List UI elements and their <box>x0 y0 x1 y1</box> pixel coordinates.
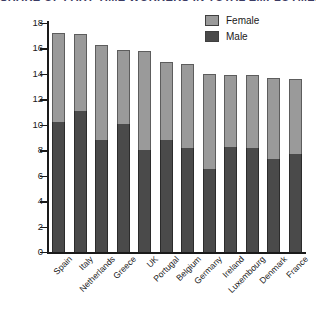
bar-chart: SHARE OF PART-TIME WORKERS IN TOTAL EMPL… <box>0 0 316 316</box>
bar-series-container <box>47 23 305 252</box>
legend-item-female[interactable]: Female <box>205 15 259 26</box>
bar-segment-male <box>95 140 108 252</box>
bar-segment-male <box>74 111 87 252</box>
bar-ireland[interactable] <box>224 75 237 252</box>
bar-spain[interactable] <box>52 33 65 252</box>
bar-segment-female <box>267 78 280 159</box>
bar-segment-female <box>95 45 108 140</box>
y-tick-label: 10 <box>32 120 43 130</box>
x-axis-labels: SpainItalyNetherlandsGreeceUKPortugalBel… <box>47 254 309 316</box>
bar-belgium[interactable] <box>181 64 194 252</box>
bar-segment-male <box>246 148 259 252</box>
bar-segment-male <box>289 154 302 252</box>
bar-segment-male <box>117 124 130 252</box>
legend-swatch-female <box>205 15 219 26</box>
bar-segment-female <box>224 75 237 147</box>
bar-segment-female <box>74 34 87 110</box>
bar-luxembourg[interactable] <box>246 75 259 252</box>
y-tick-label: 12 <box>32 95 43 105</box>
bar-germany[interactable] <box>203 74 216 252</box>
bar-segment-female <box>52 33 65 122</box>
bar-segment-female <box>203 74 216 169</box>
x-label-spain: Spain <box>51 254 74 277</box>
bar-uk[interactable] <box>138 51 151 252</box>
bar-segment-male <box>181 148 194 252</box>
legend-swatch-male <box>205 31 219 42</box>
plot-area: % of total employment 1994 0246810121416… <box>47 23 305 252</box>
bar-segment-female <box>138 51 151 150</box>
x-label-france: France <box>284 254 310 280</box>
bar-segment-female <box>117 50 130 124</box>
bar-netherlands[interactable] <box>95 45 108 252</box>
bar-denmark[interactable] <box>267 78 280 252</box>
bar-segment-male <box>52 122 65 252</box>
bar-segment-female <box>289 79 302 154</box>
y-tick-label: 16 <box>32 44 43 54</box>
bar-segment-female <box>181 64 194 148</box>
bar-portugal[interactable] <box>160 62 173 252</box>
bar-segment-female <box>246 75 259 148</box>
bar-france[interactable] <box>289 79 302 252</box>
bar-segment-male <box>267 159 280 252</box>
y-tick-label: 0 <box>38 247 43 257</box>
bar-italy[interactable] <box>74 34 87 252</box>
chart-legend: Female Male <box>205 15 259 42</box>
y-tick-label: 8 <box>38 145 43 155</box>
y-tick-label: 14 <box>32 69 43 79</box>
bar-segment-male <box>160 140 173 252</box>
y-tick-label: 18 <box>32 18 43 28</box>
bar-segment-female <box>160 62 173 140</box>
legend-item-male[interactable]: Male <box>205 31 259 42</box>
legend-label-female: Female <box>226 16 259 26</box>
x-label-greece: Greece <box>111 254 138 281</box>
bar-segment-male <box>138 150 151 252</box>
y-tick-label: 4 <box>38 196 43 206</box>
x-label-uk: UK <box>144 254 160 270</box>
y-tick-label: 2 <box>38 222 43 232</box>
bar-segment-male <box>224 147 237 252</box>
bar-greece[interactable] <box>117 50 130 252</box>
y-tick-label: 6 <box>38 171 43 181</box>
legend-label-male: Male <box>226 32 248 42</box>
bar-segment-male <box>203 169 216 252</box>
